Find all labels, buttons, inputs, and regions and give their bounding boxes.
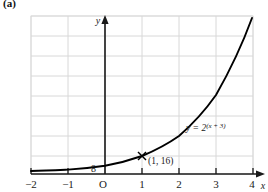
x-tick-label-1: 1: [139, 178, 145, 190]
x-tick-label-origin: O: [99, 178, 107, 190]
x-axis-label: x: [260, 180, 266, 191]
x-tick-label-3: 3: [213, 178, 219, 190]
x-axis-arrowhead: [256, 170, 265, 177]
part-label: (a): [3, 0, 16, 9]
x-tick-label-neg2: −2: [25, 178, 37, 190]
y-axis-label: y: [95, 15, 101, 26]
curve-equation-base: y = 2: [185, 123, 206, 133]
curve-equation-exponent: (x + 3): [206, 122, 226, 130]
point-label: (1, 16): [148, 156, 173, 167]
x-tick-label-neg1: −1: [62, 178, 74, 190]
y-intercept-label: 8: [91, 163, 96, 174]
x-tick-label-4: 4: [249, 178, 255, 190]
exponential-graph-figure: (a): [0, 0, 268, 192]
x-tick-label-2: 2: [176, 178, 182, 190]
plot-canvas: −2 −1 O 1 2 3 4 y x (1, 16) 8 y = 2(x + …: [0, 0, 268, 192]
